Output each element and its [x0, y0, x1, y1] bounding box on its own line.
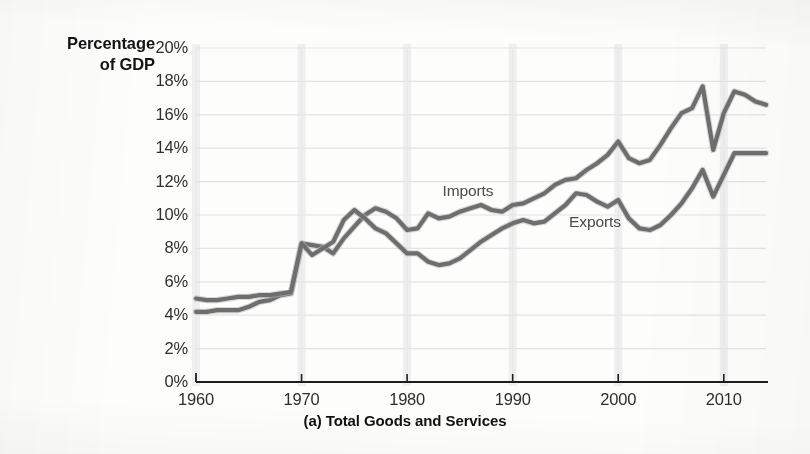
series-line-exports [196, 153, 766, 300]
chart-figure: Percentage of GDP 0%2%4%6%8%10%12%14%16%… [0, 0, 810, 454]
series-label-imports: Imports [442, 182, 493, 200]
series-line-shadow [196, 153, 766, 300]
plot-area [0, 0, 810, 454]
series-label-exports: Exports [569, 213, 621, 231]
